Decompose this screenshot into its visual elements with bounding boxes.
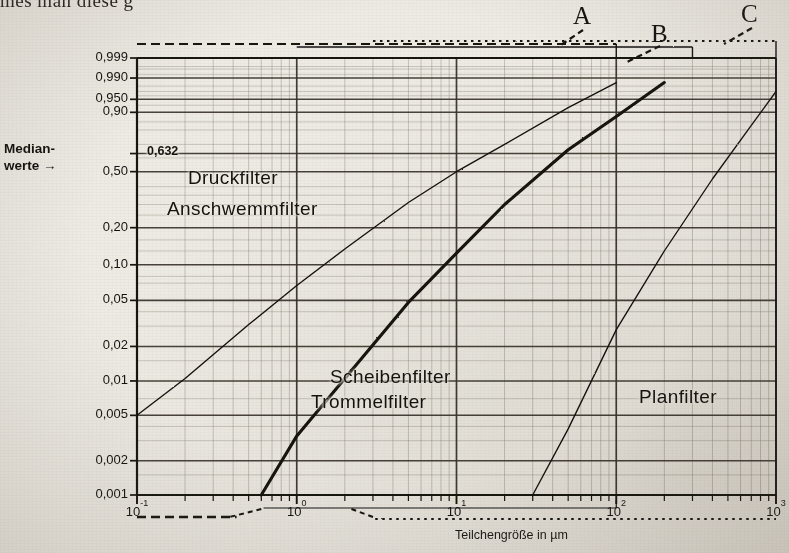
chart-svg xyxy=(0,0,789,553)
chart-plot-area xyxy=(0,0,789,553)
bracket-letter-b: B xyxy=(651,20,668,48)
annotation-anschwemmfilter: Anschwemmfilter xyxy=(167,198,318,220)
annotation-scheibenfilter: Scheibenfilter xyxy=(330,366,451,388)
annotation-trommelfilter: Trommelfilter xyxy=(311,391,426,413)
annotation-druckfilter: Druckfilter xyxy=(188,167,278,189)
bracket-letter-a: A xyxy=(573,2,591,30)
annotation-planfilter: Planfilter xyxy=(639,386,717,408)
axis-ticks xyxy=(130,58,776,504)
range-brackets xyxy=(137,41,776,58)
bracket-letter-c: C xyxy=(741,0,758,28)
annotation-0632: 0,632 xyxy=(147,144,178,158)
